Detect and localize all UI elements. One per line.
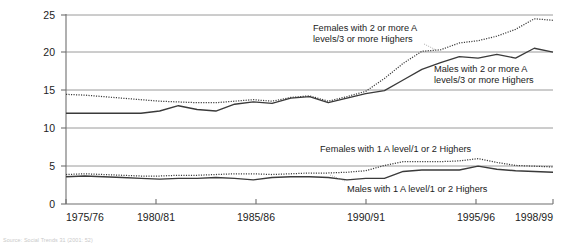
x-tick-label-1995-96: 1995/96 bbox=[457, 211, 495, 223]
annotation-males-2plus-a-levels: Males with 2 or more A levels/3 or more … bbox=[434, 64, 534, 85]
x-tick-labels: 1975/76 1980/81 1985/86 1990/91 1995/96 … bbox=[66, 211, 553, 223]
x-tick-label-1990-91: 1990/91 bbox=[347, 211, 385, 223]
y-tick-label-10: 10 bbox=[43, 122, 55, 134]
y-tick-label-15: 15 bbox=[43, 84, 55, 96]
annotation-females-2plus-a-levels: Females with 2 or more A levels/3 or mor… bbox=[313, 23, 418, 44]
axes bbox=[61, 14, 553, 204]
y-tick-label-5: 5 bbox=[49, 160, 55, 172]
y-tick-label-25: 25 bbox=[43, 9, 55, 21]
chart-container: 25 20 15 10 5 0 1975/76 1980/81 1985/86 … bbox=[0, 0, 573, 243]
annotation-males-1a-line1: Males with 1 A level/1 or 2 Highers bbox=[347, 184, 488, 194]
annotation-females-1a-line1: Females with 1 A level/1 or 2 Highers bbox=[320, 144, 472, 154]
x-tick-label-1975-76: 1975/76 bbox=[66, 211, 104, 223]
y-tick-label-0: 0 bbox=[49, 198, 55, 210]
y-tick-labels: 25 20 15 10 5 0 bbox=[43, 9, 55, 210]
data-series bbox=[66, 19, 553, 180]
leader-lines bbox=[330, 44, 436, 181]
x-tick-label-1998-99: 1998/99 bbox=[515, 211, 553, 223]
source-note: Source: Social Trends 31 (2001: 52) bbox=[3, 237, 93, 243]
annotation-males-2plus-line1: Males with 2 or more A bbox=[434, 64, 528, 74]
gridlines bbox=[66, 15, 553, 166]
leader-line-females-2plus bbox=[424, 44, 436, 50]
x-tick-label-1980-81: 1980/81 bbox=[137, 211, 175, 223]
annotation-females-1-a-level: Females with 1 A level/1 or 2 Highers bbox=[320, 144, 472, 154]
series-males-1-a-level bbox=[66, 166, 553, 180]
series-females-1-a-level bbox=[66, 159, 553, 176]
annotation-females-2plus-line2: levels/3 or more Highers bbox=[313, 34, 413, 44]
x-tick-label-1985-86: 1985/86 bbox=[237, 211, 275, 223]
annotation-males-1-a-level: Males with 1 A level/1 or 2 Highers bbox=[347, 184, 488, 194]
y-tick-label-20: 20 bbox=[43, 46, 55, 58]
annotation-females-2plus-line1: Females with 2 or more A bbox=[313, 23, 418, 33]
annotation-males-2plus-line2: levels/3 or more Highers bbox=[434, 75, 534, 85]
line-chart: 25 20 15 10 5 0 1975/76 1980/81 1985/86 … bbox=[0, 0, 573, 243]
